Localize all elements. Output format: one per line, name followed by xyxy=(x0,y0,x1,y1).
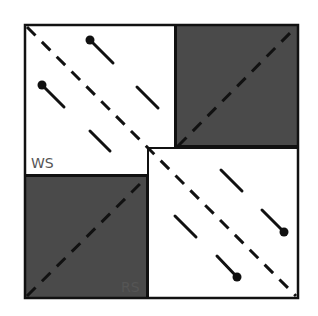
rs-dot-1 xyxy=(280,228,289,237)
ws-dot-2 xyxy=(38,81,47,90)
rs-label: RS xyxy=(121,279,140,295)
rs-dot-2 xyxy=(233,273,242,282)
ws-label: WS xyxy=(31,155,54,171)
ws-dot-1 xyxy=(86,36,95,45)
diagram-canvas: WS RS xyxy=(0,0,318,316)
